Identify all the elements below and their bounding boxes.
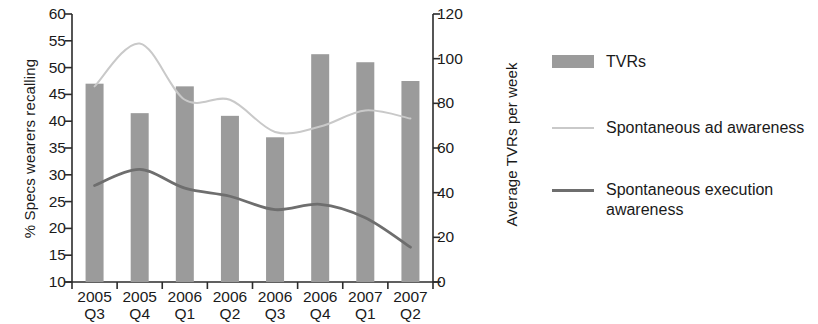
legend-item[interactable]: Spontaneous execution awareness xyxy=(552,180,818,220)
legend-label: Spontaneous ad awareness xyxy=(606,118,804,138)
bar xyxy=(311,54,329,282)
bar xyxy=(401,81,419,282)
plot-area: % Specs wearers recalling Average TVRs p… xyxy=(0,0,530,324)
bar xyxy=(356,62,374,282)
legend-item[interactable]: TVRs xyxy=(552,52,818,72)
legend-label: Spontaneous execution awareness xyxy=(606,180,818,220)
legend-item[interactable]: Spontaneous ad awareness xyxy=(552,118,818,138)
legend-swatch xyxy=(552,52,594,71)
bar xyxy=(131,113,149,282)
bar xyxy=(176,86,194,282)
line-swatch-light-icon xyxy=(552,127,594,129)
legend-swatch xyxy=(552,180,594,199)
plot-canvas xyxy=(0,0,530,324)
legend-swatch xyxy=(552,118,594,137)
chart-figure: % Specs wearers recalling Average TVRs p… xyxy=(0,0,818,324)
line-swatch-dark-icon xyxy=(552,189,594,192)
legend-label: TVRs xyxy=(606,52,646,72)
bar-swatch-icon xyxy=(552,55,594,68)
